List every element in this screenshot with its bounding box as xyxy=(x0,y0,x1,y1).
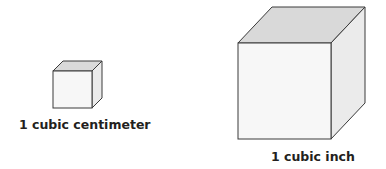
small-cube-label: 1 cubic centimeter xyxy=(19,117,151,132)
large-cube xyxy=(238,7,365,139)
small-cube xyxy=(53,61,102,108)
large-cube-front-face xyxy=(238,43,331,139)
small-cube-front-face xyxy=(53,71,92,108)
large-cube-label: 1 cubic inch xyxy=(271,149,355,164)
volume-comparison-diagram: 1 cubic centimeter 1 cubic inch xyxy=(0,0,386,169)
cubes-drawing xyxy=(0,0,386,169)
